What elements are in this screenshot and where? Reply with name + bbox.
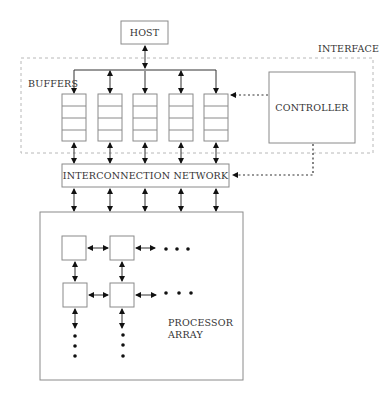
host-label: HOST	[130, 27, 160, 38]
processing-element	[62, 236, 86, 260]
buffers-group	[62, 70, 228, 141]
processing-element	[63, 283, 87, 307]
buffer-3	[133, 71, 157, 141]
controller-to-network-arrow	[233, 144, 313, 175]
buffer-5	[204, 70, 228, 141]
network-array-links	[74, 189, 216, 211]
interface-label: INTERFACE	[318, 43, 379, 54]
processing-element	[110, 283, 134, 307]
processor-array: PROCESSOR ARRAY	[40, 212, 243, 380]
architecture-diagram: HOST INTERFACE BUFFERS	[0, 0, 392, 396]
network-node: INTERCONNECTION NETWORK	[62, 164, 229, 187]
buffer-2	[98, 71, 122, 141]
network-label: INTERCONNECTION NETWORK	[63, 170, 229, 181]
processor-array-label-line2: ARRAY	[167, 329, 203, 340]
host-node: HOST	[121, 21, 168, 44]
buffer-4	[169, 71, 193, 141]
controller-node: CONTROLLER	[269, 72, 355, 143]
processing-element	[110, 236, 134, 260]
processor-array-label-line1: PROCESSOR	[168, 317, 234, 328]
buffers-label: BUFFERS	[28, 78, 78, 89]
controller-label: CONTROLLER	[275, 102, 349, 113]
